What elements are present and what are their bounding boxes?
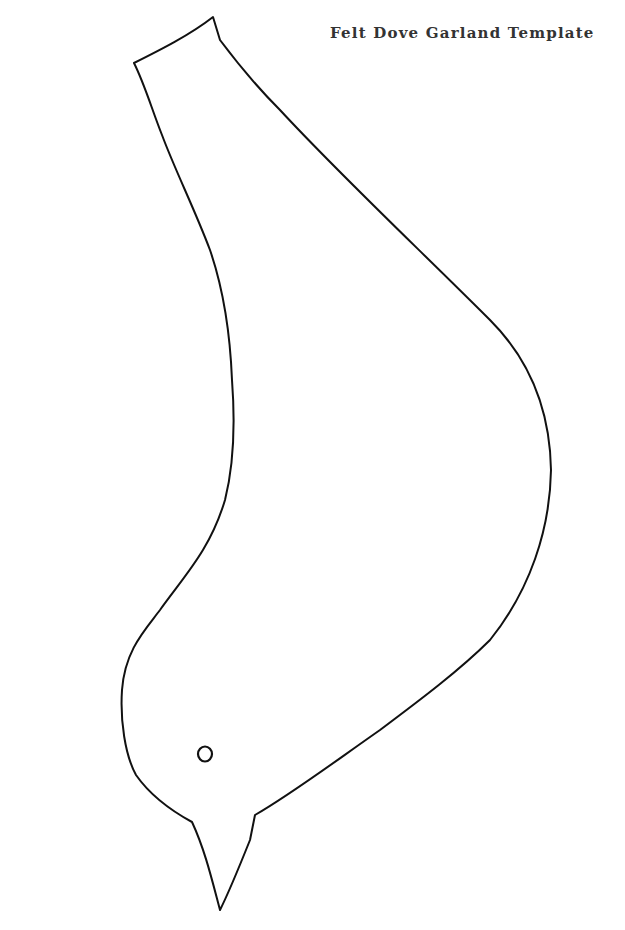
dove-template-outline [0,0,625,930]
eye-hole-icon [198,747,212,762]
dove-outline [122,17,551,910]
